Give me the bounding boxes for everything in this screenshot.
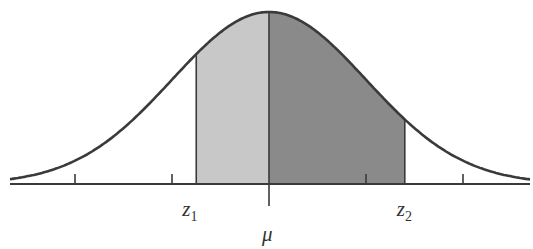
z2-label: z2 xyxy=(397,197,412,225)
z1-label: z1 xyxy=(182,197,197,225)
bell-curve-plot xyxy=(0,0,533,249)
shaded-region-z1-mu xyxy=(196,12,269,184)
normal-distribution-diagram: z1 z2 μ xyxy=(0,0,533,249)
mu-label: μ xyxy=(262,222,273,247)
